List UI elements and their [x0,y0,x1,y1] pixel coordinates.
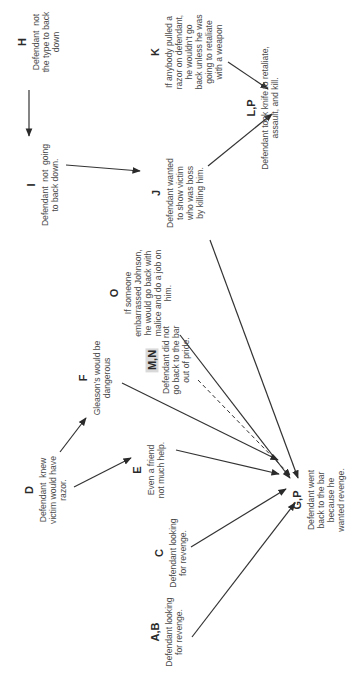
node-d-label: D [23,456,36,524]
node-c-text: Defendant looking for revenge. [168,518,188,587]
node-c: C Defendant looking for revenge. [153,518,188,587]
edge-d-f [60,418,86,452]
node-c-label: C [153,518,166,587]
node-k-text: If anybody pulled a razor on defendant, … [164,15,224,90]
node-o-text: If someone embarrassed Johnson, he would… [123,249,173,336]
node-f-text: Gleason's would be dangerous [92,341,112,416]
node-e-label: E [131,442,144,498]
node-e: E Even a friend not much help. [131,442,166,498]
edge-d-e [74,458,131,487]
node-f-label: F [77,341,90,416]
node-f: F Gleason's would be dangerous [77,341,112,416]
edge-i-j [66,165,140,171]
node-k: K If anybody pulled a razor on defendant… [149,15,224,90]
node-k-label: K [149,15,162,90]
node-mn-label: M,N [146,348,159,372]
node-gp-text: Defendant went back to the bar because h… [306,468,346,532]
node-ab: A,B Defendant looking for revenge. [149,597,184,666]
node-h: H Defendant not the type to back down [16,12,61,73]
edge-e-gp [176,450,279,474]
node-o-label: O [108,249,121,336]
argument-diagram: H Defendant not the type to back down I … [0,0,353,692]
node-lp-label: L,P [245,46,258,170]
node-h-text: Defendant not the type to back down [31,12,61,73]
node-j: J Defendant wanted to show victim who wa… [150,158,205,228]
node-i: I Defendant not going to back down. [25,144,60,226]
edge-o-gp [180,335,290,478]
node-lp: L,P Defendant took knife to retaliate, a… [245,46,280,170]
node-d: D Defendant knew victim would have razor… [23,456,68,524]
edge-j-gp [210,240,298,478]
node-ab-text: Defendant looking for revenge. [164,597,184,666]
node-gp: G,P Defendant went back to the bar becau… [291,468,346,532]
node-lp-text: Defendant took knife to retaliate, assau… [260,46,280,170]
node-mn-text: Defendant did not go back to the bar out… [161,326,191,395]
node-h-label: H [16,12,29,73]
node-gp-label: G,P [291,468,304,532]
edge-ab-gp [192,503,295,637]
edge-c-gp [191,489,286,547]
node-mn: M,N Defendant did not go back to the bar… [142,326,191,395]
node-j-text: Defendant wanted to show victim who was … [165,158,205,228]
node-o: O If someone embarrassed Johnson, he wou… [108,249,173,336]
node-i-text: Defendant not going to back down. [40,144,60,226]
node-e-text: Even a friend not much help. [146,442,166,498]
node-i-label: I [25,144,38,226]
node-ab-label: A,B [149,597,162,666]
node-j-label: J [150,158,163,228]
node-d-text: Defendant knew victim would have razor. [38,456,68,524]
